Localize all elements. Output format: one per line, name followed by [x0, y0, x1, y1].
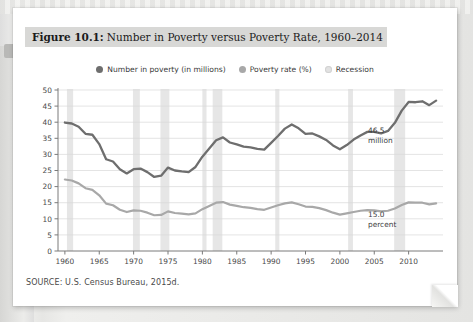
chart-svg: 05101520253035404550 1960196519701975198… [13, 8, 457, 306]
annotation-number-unit: million [368, 136, 393, 145]
y-axis-ticks: 05101520253035404550 [43, 86, 58, 256]
y-tick-label: 30 [43, 150, 53, 159]
x-tick-label: 1970 [124, 257, 143, 266]
x-tick-label: 2005 [365, 257, 384, 266]
x-tick-label: 1985 [227, 257, 246, 266]
y-tick-label: 45 [43, 102, 53, 111]
y-tick-label: 35 [43, 134, 53, 143]
x-tick-label: 2000 [330, 257, 349, 266]
annotation-number-value: 46.5 [368, 126, 385, 135]
y-tick-label: 5 [47, 231, 52, 240]
y-tick-label: 15 [43, 198, 53, 207]
source-note: SOURCE: U.S. Census Bureau, 2015d. [26, 278, 179, 287]
y-tick-label: 50 [43, 86, 53, 95]
recession-band [67, 89, 73, 251]
figure-card: Figure 10.1: Number in Poverty versus Po… [13, 8, 457, 306]
x-tick-label: 1990 [262, 257, 281, 266]
x-tick-label: 1960 [55, 257, 74, 266]
series-lines [65, 101, 436, 216]
recession-band [213, 89, 223, 251]
recession-band [348, 89, 353, 251]
recession-bands [67, 89, 405, 251]
x-tick-label: 1995 [296, 257, 315, 266]
grid-lines [58, 90, 443, 235]
x-tick-label: 1975 [159, 257, 178, 266]
x-tick-label: 1980 [193, 257, 212, 266]
chart-plot-area: 05101520253035404550 1960196519701975198… [13, 8, 457, 306]
y-tick-label: 20 [43, 182, 53, 191]
y-tick-label: 25 [43, 166, 53, 175]
annotation-rate-unit: percent [368, 220, 396, 229]
recession-band [275, 89, 279, 251]
annotation-rate-value: 15.0 [368, 210, 385, 219]
chart-annotations: 46.5million15.0percent [368, 126, 396, 229]
y-tick-label: 10 [43, 215, 53, 224]
x-axis-ticks: 1960196519701975198019851990199520002005… [55, 251, 418, 266]
x-tick-label: 1965 [90, 257, 109, 266]
x-tick-label: 2010 [399, 257, 418, 266]
y-tick-label: 40 [43, 118, 53, 127]
recession-band [202, 89, 206, 251]
y-tick-label: 0 [47, 247, 52, 256]
